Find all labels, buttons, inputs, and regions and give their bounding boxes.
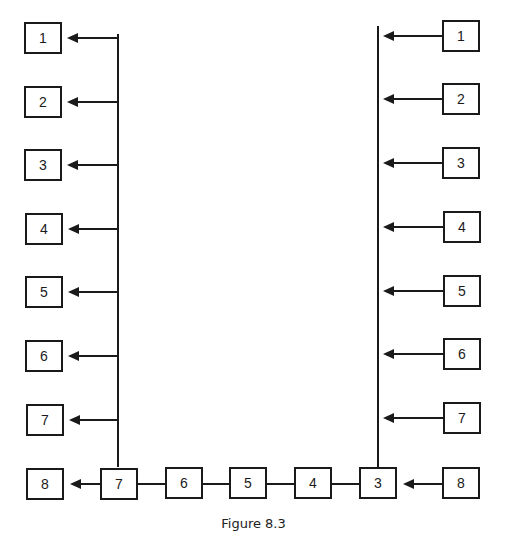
arrow-left-icon bbox=[383, 31, 394, 41]
bottom-row-box-6: 6 bbox=[165, 467, 203, 499]
right-column-box-4: 4 bbox=[443, 211, 481, 243]
arrow-left-icon bbox=[383, 94, 394, 104]
right-column-box-3: 3 bbox=[442, 147, 480, 179]
left-column-box-2: 2 bbox=[24, 86, 62, 118]
bottom-row-box-5: 5 bbox=[229, 467, 267, 499]
left-column-box-6: 6 bbox=[25, 340, 63, 372]
right-column-box-5: 5 bbox=[443, 275, 481, 307]
arrow-left-icon bbox=[68, 351, 79, 361]
right-column-box-2: 2 bbox=[442, 83, 480, 115]
arrow-left-icon bbox=[69, 415, 80, 425]
bottom-row-box-4: 4 bbox=[294, 467, 332, 499]
arrow-left-icon bbox=[383, 158, 394, 168]
left-column-box-3: 3 bbox=[24, 149, 62, 181]
arrow-left-icon bbox=[383, 413, 394, 423]
bottom-row-box-7: 7 bbox=[100, 468, 138, 500]
arrow-left-icon bbox=[67, 33, 78, 43]
right-column-box-7: 7 bbox=[443, 402, 481, 434]
bottom-row-box-8: 8 bbox=[26, 468, 64, 500]
bottom-row-box-3: 3 bbox=[359, 467, 397, 499]
arrow-left-icon bbox=[383, 222, 394, 232]
figure-caption: Figure 8.3 bbox=[0, 516, 507, 531]
right-column-box-6: 6 bbox=[443, 338, 481, 370]
left-column-box-4: 4 bbox=[25, 213, 63, 245]
arrow-left-icon bbox=[383, 286, 394, 296]
bottom-row-box-8: 8 bbox=[442, 467, 480, 499]
figure-8-3-diagram: 123456712345678765438 Figure 8.3 bbox=[0, 0, 507, 537]
arrow-left-icon bbox=[68, 287, 79, 297]
arrow-left-icon bbox=[383, 349, 394, 359]
arrow-left-icon bbox=[67, 97, 78, 107]
arrow-left-icon bbox=[68, 224, 79, 234]
left-column-box-5: 5 bbox=[25, 276, 63, 308]
arrow-left-icon bbox=[67, 160, 78, 170]
left-column-box-1: 1 bbox=[24, 22, 62, 54]
right-column-box-1: 1 bbox=[442, 20, 480, 52]
left-column-box-7: 7 bbox=[26, 404, 64, 436]
connection-lines bbox=[0, 0, 507, 537]
